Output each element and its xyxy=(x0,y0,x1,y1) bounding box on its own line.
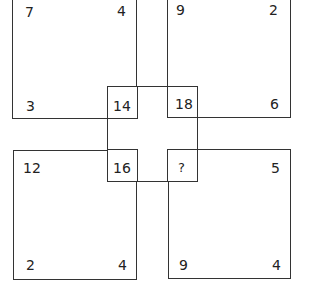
number-top-right-bl: 18 xyxy=(175,97,193,111)
number-bottom-right-bl: 9 xyxy=(179,258,188,272)
number-bottom-right-br: 4 xyxy=(272,258,281,272)
number-bottom-left-bl: 2 xyxy=(26,258,35,272)
number-top-right-br: 6 xyxy=(270,97,279,111)
number-top-right-tr: 2 xyxy=(269,3,278,17)
number-bottom-left-br: 4 xyxy=(118,258,127,272)
unknown-value-marker: ? xyxy=(178,161,185,175)
number-top-left-tr: 4 xyxy=(117,4,126,18)
number-top-left-bl: 3 xyxy=(26,99,35,113)
number-top-left-tl: 7 xyxy=(25,5,34,19)
number-bottom-left-tr: 16 xyxy=(113,161,131,175)
number-bottom-right-tr: 5 xyxy=(271,161,280,175)
number-bottom-left-tl: 12 xyxy=(23,161,41,175)
number-top-left-br: 14 xyxy=(113,99,131,113)
number-top-right-tl: 9 xyxy=(176,3,185,17)
